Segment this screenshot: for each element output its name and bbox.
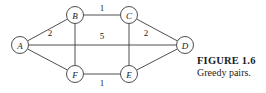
figure-page: ABCDEF 21251 FIGURE 1.6 Greedy pairs. bbox=[0, 0, 266, 93]
graph-edge-a-f bbox=[28, 49, 68, 70]
edges-layer bbox=[27, 15, 177, 74]
graph-node-e: E bbox=[121, 66, 138, 83]
node-label-f: F bbox=[71, 70, 78, 80]
graph-edge-e-d bbox=[137, 49, 178, 70]
edge-weight-b-c: 1 bbox=[100, 3, 105, 13]
figure-caption-text: Greedy pairs. bbox=[197, 67, 266, 79]
figure-caption-title: FIGURE 1.6 bbox=[197, 55, 266, 67]
edge-weight-a-b: 2 bbox=[48, 28, 53, 38]
graph-node-d: D bbox=[177, 37, 194, 54]
graph-node-f: F bbox=[67, 66, 84, 83]
nodes-layer: ABCDEF bbox=[12, 7, 194, 83]
graph-edge-c-d bbox=[136, 19, 177, 41]
edge-weight-f-e: 1 bbox=[100, 78, 105, 88]
edge-weight-a-d: 5 bbox=[100, 31, 105, 41]
node-label-b: B bbox=[72, 11, 78, 21]
node-label-d: D bbox=[181, 41, 189, 51]
graph-node-a: A bbox=[12, 37, 29, 54]
figure-caption: FIGURE 1.6 Greedy pairs. bbox=[197, 55, 266, 79]
node-label-a: A bbox=[16, 41, 23, 51]
graph-diagram: ABCDEF 21251 bbox=[0, 0, 200, 93]
node-label-e: E bbox=[125, 70, 132, 80]
graph-node-c: C bbox=[121, 7, 138, 24]
edge-weight-c-d: 2 bbox=[144, 28, 149, 38]
graph-svg: ABCDEF 21251 bbox=[0, 0, 200, 93]
node-label-c: C bbox=[126, 11, 133, 21]
graph-node-b: B bbox=[67, 7, 84, 24]
